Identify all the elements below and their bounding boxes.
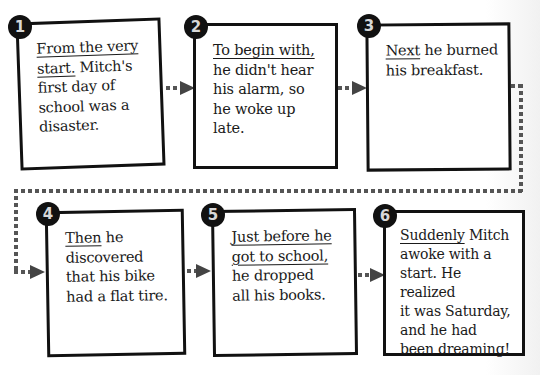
step-3-line: he burned <box>420 41 498 58</box>
step-number-badge-3: 3 <box>357 14 381 38</box>
step-1-transition: From the very <box>36 37 138 57</box>
step-3-text: Next he burned his breakfast. <box>386 40 500 80</box>
step-2-transition: To begin with, <box>213 42 315 58</box>
step-5-transition: Just before he <box>231 227 331 244</box>
step-4-line: that his bike <box>66 267 155 285</box>
step-6-line: Mitch <box>465 227 510 243</box>
step-card-4: Then he discovered that his bike had a f… <box>45 209 187 357</box>
step-6-line: start. He realized <box>400 265 461 300</box>
step-1-transition-cont: start. <box>37 59 76 76</box>
step-6-line: been dreaming! <box>400 341 510 357</box>
step-1-line: Mitch's <box>75 57 133 75</box>
step-card-5: Just before he got to school, he dropped… <box>211 208 358 357</box>
connector-3-4-line-down-left <box>14 189 18 271</box>
connector-2-3-line <box>338 86 352 90</box>
step-5-line: all his books. <box>232 286 326 303</box>
step-5-text: Just before he got to school, he dropped… <box>231 226 346 306</box>
connector-2-3-arrowhead-icon <box>352 81 367 95</box>
step-card-2: To begin with, he didn't hear his alarm,… <box>193 23 338 169</box>
step-6-transition: Suddenly <box>400 227 465 243</box>
step-4-line: discovered <box>65 248 143 265</box>
step-number-badge-4: 4 <box>36 202 60 226</box>
step-1-line: disaster. <box>39 117 100 135</box>
connector-3-4-line-in <box>14 270 30 274</box>
connector-4-5-arrowhead-icon <box>196 264 211 278</box>
step-number-badge-5: 5 <box>201 203 225 227</box>
step-6-line: it was Saturday, <box>400 303 510 319</box>
connector-3-4-arrowhead-icon <box>30 265 45 279</box>
step-5-line: he dropped <box>232 267 314 284</box>
step-card-1: From the very start. Mitch's first day o… <box>15 18 165 171</box>
connector-1-2-line <box>166 86 180 90</box>
connector-3-4-line-across <box>14 189 523 193</box>
step-4-text: Then he discovered that his bike had a f… <box>65 227 174 307</box>
step-6-line: and he had <box>400 322 477 338</box>
step-2-text: To begin with, he didn't hear his alarm,… <box>213 41 327 139</box>
step-card-3: Next he burned his breakfast. <box>365 22 511 171</box>
connector-3-4-line-down <box>519 84 523 192</box>
step-6-text: Suddenly Mitch awoke with a start. He re… <box>400 226 514 359</box>
step-3-transition: Next <box>386 42 421 58</box>
step-1-line: school was a <box>38 96 129 115</box>
step-number-badge-6: 6 <box>373 204 397 228</box>
step-4-line: he <box>101 229 123 245</box>
step-4-line: had a flat tire. <box>66 287 168 305</box>
step-2-line: his alarm, so <box>213 81 304 97</box>
step-4-transition: Then <box>65 229 101 246</box>
step-number-badge-2: 2 <box>184 15 208 39</box>
step-1-text: From the very start. Mitch's first day o… <box>36 36 153 137</box>
connector-5-6-line <box>358 273 370 277</box>
step-2-line: he didn't hear <box>213 62 313 78</box>
step-card-6: Suddenly Mitch awoke with a start. He re… <box>383 210 525 356</box>
step-number-badge-1: 1 <box>8 15 32 39</box>
step-3-line: his breakfast. <box>386 61 483 78</box>
step-1-line: first day of <box>37 77 115 96</box>
step-6-line: awoke with a <box>400 246 491 262</box>
step-5-transition-cont: got to school, <box>232 247 329 264</box>
step-2-line: he woke up late. <box>213 101 295 137</box>
